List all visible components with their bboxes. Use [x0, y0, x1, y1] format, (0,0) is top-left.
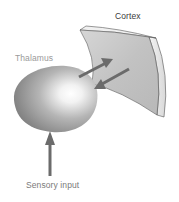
- cortex-label: Cortex: [115, 11, 141, 21]
- sensory-input-label: Sensory input: [26, 180, 79, 190]
- sensory-input-arrow: [45, 131, 55, 176]
- thalamus-label: Thalamus: [15, 53, 53, 63]
- diagram-graphic: [0, 0, 179, 202]
- thalamus-ovoid: [14, 66, 98, 132]
- thalamocortical-diagram: Cortex Thalamus Sensory input: [0, 0, 179, 202]
